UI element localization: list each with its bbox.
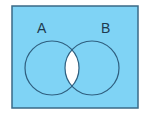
set-b-label: B <box>101 20 110 36</box>
venn-diagram: A B <box>0 0 148 116</box>
set-a-label: A <box>37 20 47 36</box>
